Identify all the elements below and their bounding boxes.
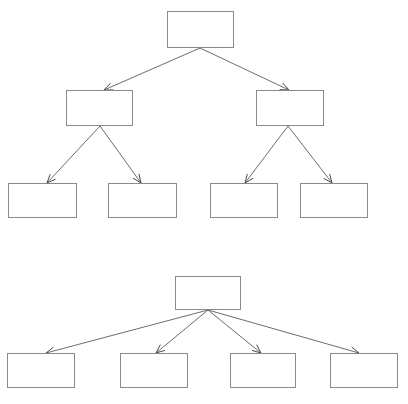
node-box[interactable] (210, 183, 278, 218)
connector-edge (288, 126, 332, 183)
node-box[interactable] (108, 183, 177, 218)
node-box[interactable] (330, 353, 398, 388)
connector-edge (104, 48, 200, 90)
connector-edge (100, 126, 141, 183)
arrowhead-icon (156, 345, 165, 353)
connector-edge (47, 126, 100, 183)
arrowhead-icon (324, 174, 332, 183)
node-box[interactable] (66, 90, 133, 126)
node-box[interactable] (7, 353, 75, 388)
arrowhead-icon (133, 174, 141, 183)
arrowhead-icon (252, 345, 261, 353)
connector-edge (208, 310, 359, 353)
arrowhead-icon (280, 83, 289, 90)
connector-edge (200, 48, 289, 90)
node-box[interactable] (120, 353, 188, 388)
node-box[interactable] (256, 90, 324, 126)
node-box[interactable] (8, 183, 77, 218)
connector-edge (156, 310, 208, 353)
node-box[interactable] (175, 276, 241, 310)
arrowhead-icon (47, 175, 55, 183)
node-box[interactable] (167, 11, 234, 48)
connector-edge (46, 310, 208, 353)
node-box[interactable] (300, 183, 368, 218)
connector-edge (208, 310, 261, 353)
node-box[interactable] (230, 353, 296, 388)
connector-edge (245, 126, 288, 183)
diagram-canvas (0, 0, 408, 404)
arrowhead-icon (245, 174, 253, 183)
